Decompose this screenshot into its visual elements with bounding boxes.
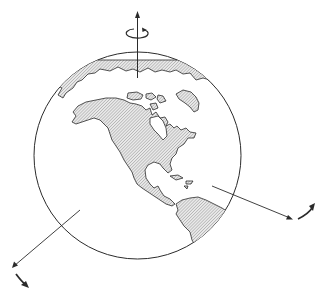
left-axis-line: [14, 210, 80, 266]
left-axis-arrowhead-icon: [12, 262, 18, 269]
left-curved-arrow-icon: [16, 274, 25, 284]
right-axis-arrowhead-icon: [286, 215, 293, 220]
vertical-axis-arrowhead-icon: [135, 11, 140, 18]
right-curved-arrow-icon: [298, 208, 312, 219]
globe-diagram: [0, 0, 324, 299]
